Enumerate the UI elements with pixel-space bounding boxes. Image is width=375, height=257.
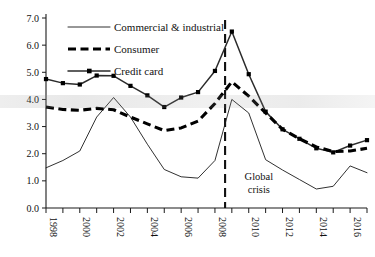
x-tick-label: 1998 <box>48 217 59 237</box>
x-tick-label: 2004 <box>149 217 160 237</box>
annotation-global-crisis-line2: crisis <box>248 184 270 195</box>
x-tick-label: 2008 <box>217 217 228 237</box>
y-tick-label: 3.0 <box>27 121 40 132</box>
x-tick-label: 2000 <box>81 217 92 237</box>
credit-card-data-point <box>247 72 251 76</box>
x-tick-label: 2006 <box>183 217 194 237</box>
credit-card-data-point <box>280 127 284 131</box>
series-line-consumer <box>46 82 367 152</box>
credit-card-data-point <box>44 77 48 81</box>
credit-card-data-point <box>95 73 99 77</box>
credit-card-data-point <box>162 105 166 109</box>
legend-item-credit-card: Credit card <box>68 65 164 77</box>
x-tick-label: 2016 <box>352 217 363 237</box>
credit-card-data-point <box>314 146 318 150</box>
credit-card-data-point <box>230 29 234 33</box>
legend-label: Consumer <box>114 43 160 55</box>
y-tick-label: 2.0 <box>27 148 40 159</box>
credit-card-data-point <box>78 82 82 86</box>
credit-card-data-point <box>145 93 149 97</box>
credit-card-data-point <box>196 90 200 94</box>
credit-card-data-point <box>365 138 369 142</box>
credit-card-data-point <box>348 143 352 147</box>
legend-label: Commercial & industrial <box>114 21 224 33</box>
y-tick-label: 4.0 <box>27 94 40 105</box>
chart-figure: 0.01.02.03.04.05.06.07.01998200020022004… <box>0 0 375 257</box>
y-tick-label: 7.0 <box>27 13 40 24</box>
x-tick-label: 2002 <box>115 217 126 237</box>
x-tick-label: 2014 <box>318 217 329 237</box>
annotation-global-crisis-line1: Global <box>245 171 274 182</box>
legend-item-commercial-industrial: Commercial & industrial <box>68 21 224 33</box>
y-tick-label: 0.0 <box>27 203 40 214</box>
credit-card-data-point <box>213 69 217 73</box>
series-line-commercial-industrial <box>46 98 367 189</box>
y-tick-label: 5.0 <box>27 67 40 78</box>
y-tick-label: 6.0 <box>27 40 40 51</box>
legend-label: Credit card <box>114 65 164 77</box>
credit-card-data-point <box>128 84 132 88</box>
credit-card-data-point <box>331 150 335 154</box>
credit-card-data-point <box>297 137 301 141</box>
legend-item-consumer: Consumer <box>68 43 160 55</box>
y-tick-label: 1.0 <box>27 175 40 186</box>
credit-card-data-point <box>264 110 268 114</box>
credit-card-data-point <box>61 81 65 85</box>
x-tick-label: 2012 <box>284 217 295 237</box>
credit-card-data-point <box>179 95 183 99</box>
line-chart-canvas: 0.01.02.03.04.05.06.07.01998200020022004… <box>0 0 375 257</box>
x-tick-label: 2010 <box>250 217 261 237</box>
